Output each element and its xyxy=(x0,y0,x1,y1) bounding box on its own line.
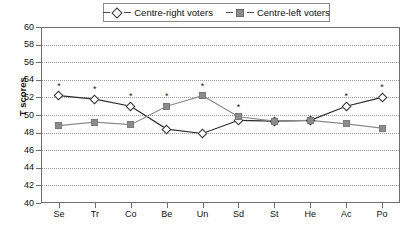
x-axis-tick-label: He xyxy=(290,210,330,219)
gridline xyxy=(42,168,399,169)
x-axis-tick-label: Sd xyxy=(218,210,258,219)
gridline xyxy=(42,80,399,81)
gridline xyxy=(42,97,399,98)
x-axis-tick-label: Co xyxy=(111,210,151,219)
y-axis-tick-label: 46 xyxy=(8,146,34,155)
gridline xyxy=(42,133,399,134)
x-axis-tick xyxy=(346,203,347,208)
x-axis-tick-label: Be xyxy=(147,210,187,219)
x-axis-tick-label: Po xyxy=(362,210,402,219)
y-axis-tick-label: 60 xyxy=(8,23,34,32)
gridline xyxy=(42,45,399,46)
plot-area xyxy=(41,27,400,203)
y-axis-tick-label: 44 xyxy=(8,163,34,172)
y-axis-tick-label: 40 xyxy=(8,199,34,208)
gridline xyxy=(42,185,399,186)
chart-figure: Centre-right voters Centre-left voters T… xyxy=(0,0,411,235)
x-axis-tick xyxy=(131,203,132,208)
gridline xyxy=(42,150,399,151)
x-axis-tick xyxy=(203,203,204,208)
x-axis-tick-label: Un xyxy=(183,210,223,219)
x-axis-tick xyxy=(95,203,96,208)
x-axis-tick-label: Tr xyxy=(75,210,115,219)
x-axis-tick xyxy=(167,203,168,208)
y-axis-tick xyxy=(36,203,41,204)
y-axis-tick-label: 42 xyxy=(8,181,34,190)
x-axis-tick-label: Ac xyxy=(326,210,366,219)
x-axis-tick xyxy=(238,203,239,208)
x-axis-tick-label: St xyxy=(254,210,294,219)
y-axis-tick-label: 50 xyxy=(8,111,34,120)
y-axis-tick-label: 58 xyxy=(8,40,34,49)
y-axis-tick-label: 54 xyxy=(8,75,34,84)
gridline xyxy=(42,115,399,116)
y-axis-tick-label: 48 xyxy=(8,128,34,137)
x-axis-tick xyxy=(382,203,383,208)
y-axis-tick-label: 56 xyxy=(8,58,34,67)
x-axis-tick-label: Se xyxy=(39,210,79,219)
gridline xyxy=(42,62,399,63)
x-axis-tick xyxy=(274,203,275,208)
x-axis-tick xyxy=(310,203,311,208)
y-axis-tick-label: 52 xyxy=(8,93,34,102)
x-axis-tick xyxy=(59,203,60,208)
